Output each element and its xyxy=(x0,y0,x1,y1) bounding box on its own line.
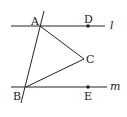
point-e-dot xyxy=(86,85,90,89)
label-line-l: l xyxy=(110,19,114,32)
label-b: B xyxy=(13,90,21,103)
segment-ac xyxy=(40,26,84,59)
label-d: D xyxy=(84,13,93,26)
label-line-m: m xyxy=(110,80,120,93)
label-e: E xyxy=(84,90,92,103)
geometry-diagram: A D C B E l m xyxy=(0,0,127,117)
segment-bc xyxy=(26,59,84,87)
label-c: C xyxy=(86,53,94,66)
label-a: A xyxy=(30,15,40,28)
